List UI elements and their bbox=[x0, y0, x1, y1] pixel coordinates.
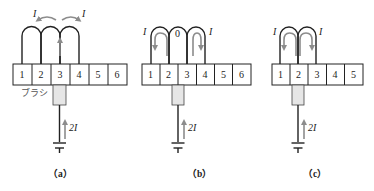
ground-icon bbox=[172, 143, 185, 153]
brush bbox=[53, 85, 66, 105]
segment-5: 5 bbox=[351, 69, 356, 80]
segment-5: 5 bbox=[221, 69, 226, 80]
caption-b: （b） bbox=[187, 168, 212, 179]
current-label-right: I bbox=[318, 26, 323, 37]
brush-label: ブラシ bbox=[21, 87, 48, 98]
panel-a: I I 1 2 3 4 5 6 ブラシ 2I （a） bbox=[13, 8, 127, 179]
panel-c: I I 1 2 3 4 5 2I （c） bbox=[272, 26, 363, 179]
brush bbox=[172, 85, 184, 105]
coil-windings bbox=[280, 27, 316, 64]
segment-1: 1 bbox=[20, 69, 25, 80]
current-arrows bbox=[38, 17, 79, 56]
segment-4: 4 bbox=[203, 69, 208, 80]
segment-3: 3 bbox=[185, 69, 190, 80]
current-label-right: I bbox=[81, 8, 86, 19]
supply-current-label: 2I bbox=[69, 122, 78, 133]
current-label-left: I bbox=[32, 8, 37, 19]
commutator: 1 2 3 4 5 6 bbox=[142, 64, 251, 85]
segment-3: 3 bbox=[58, 69, 63, 80]
caption-a: （a） bbox=[48, 168, 73, 179]
segment-1: 1 bbox=[278, 69, 283, 80]
segment-5: 5 bbox=[96, 69, 101, 80]
brush bbox=[292, 85, 304, 105]
segment-3: 3 bbox=[315, 69, 320, 80]
supply-current-label: 2I bbox=[308, 122, 317, 133]
ground-icon bbox=[292, 143, 305, 153]
caption-c: （c） bbox=[303, 168, 327, 179]
segment-4: 4 bbox=[77, 69, 82, 80]
segment-6: 6 bbox=[239, 69, 244, 80]
current-label-left: I bbox=[272, 26, 277, 37]
ground-icon bbox=[53, 143, 66, 153]
segment-1: 1 bbox=[148, 69, 153, 80]
coil-windings bbox=[22, 27, 79, 65]
panel-b: I I 0 1 2 3 4 5 6 2I （b） bbox=[142, 26, 251, 179]
center-current-label: 0 bbox=[175, 28, 180, 39]
current-label-left: I bbox=[142, 26, 147, 37]
commutator: 1 2 3 4 5 6 bbox=[13, 64, 127, 85]
current-label-right: I bbox=[208, 26, 213, 37]
segment-2: 2 bbox=[39, 69, 44, 80]
segment-4: 4 bbox=[333, 69, 338, 80]
supply-current-label: 2I bbox=[188, 122, 197, 133]
commutator-diagram: I I 1 2 3 4 5 6 ブラシ 2I （a） bbox=[0, 0, 374, 191]
commutator: 1 2 3 4 5 bbox=[272, 64, 363, 85]
segment-2: 2 bbox=[166, 69, 171, 80]
segment-2: 2 bbox=[296, 69, 301, 80]
segment-6: 6 bbox=[115, 69, 120, 80]
